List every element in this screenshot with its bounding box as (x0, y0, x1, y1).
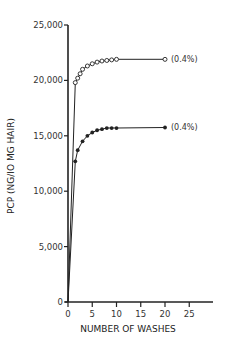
open-circle-marker (110, 58, 114, 62)
open-circle-marker (85, 64, 89, 68)
series-annotation: (0.4%) (171, 123, 198, 132)
filled-circle-marker (73, 159, 77, 163)
x-tick-label: 20 (160, 309, 171, 319)
series-line (68, 128, 165, 303)
y-tick-label: 25,000 (33, 20, 63, 30)
open-circle-marker (95, 60, 99, 64)
x-tick-label: 15 (135, 309, 146, 319)
y-tick-label: 5,000 (39, 242, 63, 252)
chart: 05,00010,00015,00020,00025,0000510152025… (0, 0, 227, 353)
y-axis-title: PCP (NG/IO MG HAIR) (6, 118, 16, 214)
open-circle-marker (78, 72, 82, 76)
filled-circle-marker (105, 126, 109, 130)
open-circle-marker (81, 67, 85, 71)
y-tick-label: 10,000 (33, 186, 63, 196)
filled-circle-marker (115, 126, 119, 130)
open-circle-marker (105, 58, 109, 62)
open-circle-marker (163, 57, 167, 61)
x-tick-label: 5 (90, 309, 95, 319)
filled-circle-marker (163, 126, 167, 130)
open-circle-marker (115, 57, 119, 61)
series-line (68, 59, 165, 302)
filled-circle-marker (81, 139, 85, 143)
filled-circle-marker (100, 127, 104, 131)
open-circle-marker (73, 81, 77, 85)
series-annotation: (0.4%) (171, 55, 198, 64)
y-tick-label: 15,000 (33, 131, 63, 141)
open-circle-marker (90, 62, 94, 66)
y-tick-label: 0 (58, 297, 63, 307)
x-tick-label: 0 (65, 309, 70, 319)
x-tick-label: 10 (111, 309, 122, 319)
filled-circle-marker (110, 126, 114, 130)
filled-circle-marker (95, 128, 99, 132)
y-tick-label: 20,000 (33, 75, 63, 85)
open-circle-marker (76, 76, 80, 80)
open-circle-marker (100, 59, 104, 63)
filled-circle-marker (86, 134, 90, 138)
axes: 05,00010,00015,00020,00025,0000510152025 (33, 20, 213, 319)
series-layer: (0.4%)(0.4%) (68, 55, 198, 302)
x-axis-title: NUMBER OF WASHES (80, 324, 176, 334)
filled-circle-marker (90, 131, 94, 135)
filled-circle-marker (76, 148, 80, 152)
x-tick-label: 25 (184, 309, 195, 319)
